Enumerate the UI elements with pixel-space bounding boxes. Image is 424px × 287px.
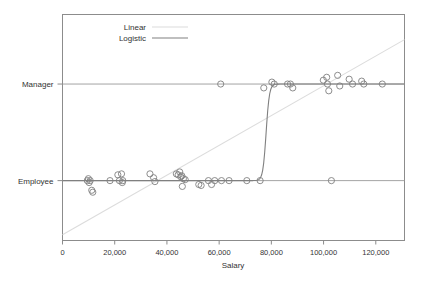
legend-label: Linear [124,23,147,32]
legend-label: Logistic [119,34,146,43]
y-tick-label: Employee [18,177,54,186]
x-tick-label: 60,000 [208,248,231,257]
chart-background [0,0,424,287]
x-tick-label: 80,000 [260,248,283,257]
x-tick-label: 0 [60,248,64,257]
chart-container: 020,00040,00060,00080,000100,000120,000 … [0,0,424,287]
y-tick-label: Manager [22,80,54,89]
x-tick-label: 120,000 [362,248,389,257]
salary-role-logistic-chart: 020,00040,00060,00080,000100,000120,000 … [0,0,424,287]
x-tick-label: 100,000 [310,248,337,257]
x-tick-label: 20,000 [103,248,126,257]
x-tick-label: 40,000 [155,248,178,257]
x-axis-title: Salary [222,261,245,270]
